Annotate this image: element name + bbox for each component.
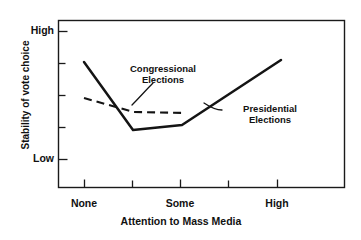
series-annotation-presidential-elections: Presidential Elections — [225, 104, 315, 125]
x-axis-tick-label-some: Some — [158, 198, 202, 210]
presidential-annotation-line-2: Elections — [225, 115, 315, 126]
x-axis-tick-label-none: None — [62, 198, 106, 210]
congressional-annotation-line-1: Congressional — [130, 63, 196, 74]
chart-figure: High Low Stability of vote choice None S… — [0, 0, 361, 240]
x-axis-tick-label-high: High — [255, 198, 299, 210]
presidential-annotation-line-1: Presidential — [243, 103, 297, 114]
y-axis-title: Stability of vote choice — [20, 15, 31, 175]
x-axis-title: Attention to Mass Media — [76, 216, 286, 228]
series-annotation-congressional-elections: Congressional Elections — [120, 64, 206, 85]
congressional-annotation-line-2: Elections — [120, 75, 206, 86]
y-axis-title-wrapper: Stability of vote choice — [20, 15, 34, 175]
